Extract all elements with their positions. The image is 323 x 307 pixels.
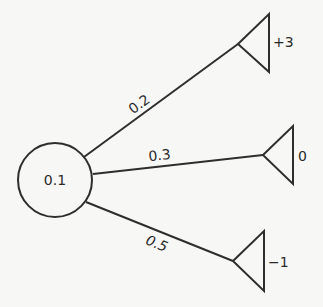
edge-branch-1 (84, 44, 238, 157)
outcome-label-1: +3 (273, 34, 294, 50)
terminal-node-3 (233, 231, 264, 291)
decision-tree-diagram: 0.1 +3 0 −1 0.2 0.3 0.5 (0, 0, 323, 307)
chance-node-label: 0.1 (44, 172, 66, 188)
terminal-node-1 (238, 14, 269, 72)
outcome-label-3: −1 (268, 254, 289, 270)
edge-branch-2 (93, 155, 263, 174)
terminal-node-2 (263, 126, 293, 184)
outcome-label-2: 0 (298, 148, 307, 164)
probability-label-1: 0.2 (125, 91, 152, 117)
probability-label-2: 0.3 (148, 146, 172, 164)
